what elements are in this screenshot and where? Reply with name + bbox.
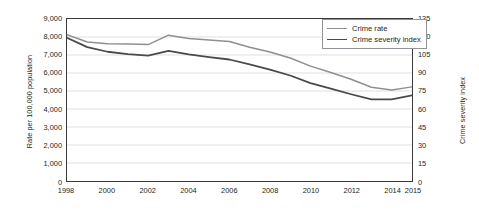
x-axis-tick-label: 2008 (250, 186, 290, 195)
x-axis-tick-label: 2000 (87, 186, 127, 195)
y-axis-right-tick-label: 30 (418, 141, 452, 150)
y-axis-right-tick-label: 90 (418, 68, 452, 77)
y-axis-left-tick-label: 6,000 (28, 68, 62, 77)
x-axis-tick-label: 2012 (332, 186, 372, 195)
legend-swatch-crime-rate (327, 28, 347, 29)
y-axis-right-tick-label: 15 (418, 159, 452, 168)
y-axis-left-tick-label: 4,000 (28, 105, 62, 114)
legend-label-crime-severity-index: Crime severity index (352, 35, 421, 44)
x-axis-tick-label: 2004 (168, 186, 208, 195)
y-axis-left-tick-label: 3,000 (28, 123, 62, 132)
x-axis-tick-label: 1998 (46, 186, 86, 195)
y-axis-left-tick-label: 8,000 (28, 32, 62, 41)
y-axis-right-tick-label: 75 (418, 86, 452, 95)
chart-figure: Rate per 100,000 population Crime severi… (0, 0, 479, 211)
y-axis-right-title: Crime severity index (458, 41, 467, 181)
y-axis-left-tick-label: 5,000 (28, 86, 62, 95)
legend-label-crime-rate: Crime rate (352, 24, 387, 33)
legend-item-crime-rate: Crime rate (327, 23, 421, 34)
legend-item-crime-severity-index: Crime severity index (327, 34, 421, 45)
x-axis-tick-label: 2015 (393, 186, 433, 195)
y-axis-right-tick-label: 45 (418, 123, 452, 132)
x-axis-tick-label: 2006 (209, 186, 249, 195)
y-axis-left-tick-label: 9,000 (28, 14, 62, 23)
y-axis-left-tick-label: 7,000 (28, 50, 62, 59)
y-axis-left-tick-label: 2,000 (28, 141, 62, 150)
y-axis-right-tick-label: 60 (418, 105, 452, 114)
legend-swatch-crime-severity-index (327, 39, 347, 40)
x-axis-tick-label: 2002 (128, 186, 168, 195)
y-axis-left-title: Rate per 100,000 population (25, 22, 34, 182)
y-axis-right-tick-label: 105 (418, 50, 452, 59)
chart-legend: Crime rate Crime severity index (322, 19, 427, 49)
y-axis-left-tick-label: 1,000 (28, 159, 62, 168)
x-axis-tick-label: 2010 (291, 186, 331, 195)
